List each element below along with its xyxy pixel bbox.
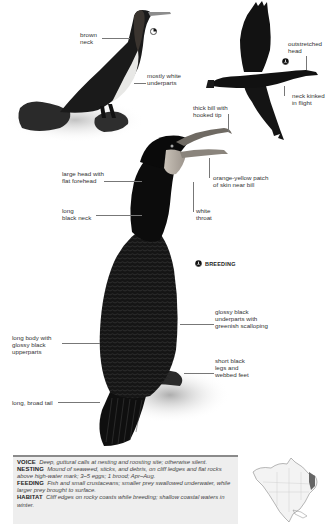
leader-line (209, 158, 210, 178)
label-long-black-neck: long black neck (62, 207, 91, 221)
label-thick-bill: thick bill with hooked tip (193, 104, 228, 118)
leader-line (306, 56, 307, 70)
label-brown-neck: brown neck (80, 31, 97, 45)
breeding-label: BREEDING (205, 261, 236, 267)
info-nesting: NESTING Mound of seaweed, sticks, and de… (17, 466, 234, 480)
info-heading: NESTING (17, 466, 44, 472)
leader-line (228, 114, 229, 132)
label-white-throat: white throat (196, 207, 212, 221)
leader-line (193, 182, 194, 212)
info-text: Fish and small crustaceans; smaller prey… (17, 480, 230, 493)
leader-line (58, 402, 100, 403)
leader-line (62, 343, 100, 344)
leader-line (134, 83, 146, 84)
info-heading: FEEDING (17, 480, 44, 486)
label-orange-yellow-patch: orange-yellow patch of skin near bill (213, 174, 268, 188)
range-map-icon (253, 458, 317, 522)
info-text: Mound of seaweed, sticks, and debris, on… (17, 466, 222, 479)
breeding-tag: BREEDING (195, 260, 236, 267)
info-voice: VOICE Deep, guttural calls at nesting an… (17, 459, 234, 466)
immature-symbol-icon (150, 28, 157, 35)
leader-line (180, 324, 214, 325)
info-habitat: HABITAT Cliff edges on rocky coasts whil… (17, 494, 234, 508)
leader-line (96, 215, 142, 216)
info-heading: VOICE (17, 459, 36, 465)
info-heading: HABITAT (17, 494, 43, 500)
breeding-symbol-icon (195, 260, 202, 267)
label-outstretched-head: outstretched head (288, 40, 322, 54)
label-glossy-black-underparts: glossy black underparts with greenish sc… (215, 308, 268, 329)
leader-line (102, 38, 130, 39)
leader-line (104, 181, 142, 182)
info-text: Cliff edges on rocky coasts while breedi… (17, 494, 224, 507)
label-mostly-white-underparts: mostly white underparts (147, 72, 181, 86)
flying-cormorant-illustration (206, 1, 318, 140)
label-short-black-legs: short black legs and webbed feet (215, 357, 249, 378)
species-info-box: VOICE Deep, guttural calls at nesting an… (13, 455, 238, 524)
label-long-broad-tail: long, broad tail (12, 399, 53, 406)
label-long-body: long body with glossy black upperparts (12, 334, 52, 355)
leader-line (284, 86, 285, 96)
label-neck-kinked: neck kinked in flight (292, 92, 325, 106)
flight-symbol-icon (282, 58, 289, 65)
label-large-head: large head with flat forehead (62, 170, 104, 184)
info-feeding: FEEDING Fish and small crustaceans; smal… (17, 480, 234, 494)
leader-line (184, 373, 214, 374)
info-text: Deep, guttural calls at nesting and roos… (39, 459, 207, 465)
